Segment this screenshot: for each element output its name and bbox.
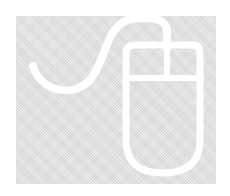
computer-mouse-icon (0, 0, 230, 196)
mouse-body (126, 45, 200, 173)
